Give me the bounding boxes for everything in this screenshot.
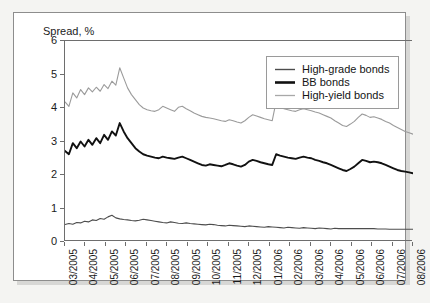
y-axis-tick bbox=[60, 208, 64, 209]
legend-item: High-yield bonds bbox=[275, 89, 389, 102]
y-axis-tick bbox=[60, 74, 64, 75]
x-axis-tick-label: 05/2006 bbox=[355, 249, 366, 285]
x-axis-tick bbox=[412, 242, 413, 246]
x-axis-tick bbox=[371, 242, 372, 246]
chart-figure: Spread, % 012345603/200504/200505/200506… bbox=[0, 0, 430, 303]
x-axis-tick bbox=[187, 242, 188, 246]
y-axis-tick-label: 1 bbox=[31, 202, 57, 214]
y-axis-tick-label: 2 bbox=[31, 168, 57, 180]
legend-swatch-high-yield bbox=[275, 91, 295, 100]
x-axis-tick-label: 06/2005 bbox=[129, 249, 140, 285]
y-axis-tick-label: 0 bbox=[31, 235, 57, 247]
y-axis-tick bbox=[60, 40, 64, 41]
chart-frame: Spread, % 012345603/200504/200505/200506… bbox=[13, 12, 406, 281]
x-axis-tick-label: 11/2005 bbox=[232, 249, 243, 284]
x-axis-tick bbox=[310, 242, 311, 246]
x-axis-tick-label: 03/2006 bbox=[314, 249, 325, 285]
x-axis-tick bbox=[228, 242, 229, 246]
x-axis-tick bbox=[105, 242, 106, 246]
x-axis-tick-label: 07/2006 bbox=[396, 249, 407, 285]
x-axis-tick-label: 07/2005 bbox=[150, 249, 161, 285]
legend-label: BB bonds bbox=[302, 76, 350, 89]
x-axis-tick-label: 12/2005 bbox=[252, 249, 263, 285]
x-axis-tick-label: 06/2006 bbox=[375, 249, 386, 285]
x-axis-tick bbox=[125, 242, 126, 246]
y-axis-tick-label: 5 bbox=[31, 68, 57, 80]
legend-label: High-grade bonds bbox=[302, 63, 389, 76]
chart-legend: High-grade bonds BB bonds High-yield bon… bbox=[266, 56, 399, 109]
series-line bbox=[65, 123, 413, 173]
x-axis-tick-label: 08/2005 bbox=[170, 249, 181, 285]
legend-item: BB bonds bbox=[275, 76, 389, 89]
x-axis-tick bbox=[248, 242, 249, 246]
y-axis-tick-label: 3 bbox=[31, 135, 57, 147]
legend-label: High-yield bonds bbox=[302, 89, 384, 102]
x-axis-tick-label: 09/2005 bbox=[191, 249, 202, 285]
x-axis-tick bbox=[269, 242, 270, 246]
legend-item: High-grade bonds bbox=[275, 63, 389, 76]
x-axis-tick bbox=[64, 242, 65, 246]
x-axis-tick-label: 04/2006 bbox=[334, 249, 345, 285]
x-axis-tick-label: 03/2005 bbox=[68, 249, 79, 285]
y-axis-tick bbox=[60, 107, 64, 108]
x-axis-tick bbox=[330, 242, 331, 246]
legend-swatch-high-grade bbox=[275, 65, 295, 74]
x-axis-tick bbox=[166, 242, 167, 246]
x-axis-tick-label: 05/2005 bbox=[109, 249, 120, 285]
x-axis-tick-label: 04/2005 bbox=[88, 249, 99, 285]
x-axis-tick-label: 10/2005 bbox=[211, 249, 222, 285]
y-axis-tick-label: 4 bbox=[31, 101, 57, 113]
x-axis-tick bbox=[146, 242, 147, 246]
y-axis-tick bbox=[60, 174, 64, 175]
y-axis-tick-label: 6 bbox=[31, 34, 57, 46]
x-axis-tick bbox=[351, 242, 352, 246]
x-axis-tick bbox=[392, 242, 393, 246]
x-axis-tick bbox=[207, 242, 208, 246]
legend-swatch-bb bbox=[275, 78, 295, 87]
x-axis-tick-label: 01/2006 bbox=[273, 249, 284, 285]
x-axis-tick bbox=[289, 242, 290, 246]
x-axis-tick-label: 08/2006 bbox=[416, 249, 427, 285]
series-line bbox=[65, 215, 413, 229]
x-axis-tick bbox=[84, 242, 85, 246]
x-axis-tick-label: 02/2006 bbox=[293, 249, 304, 285]
y-axis-tick bbox=[60, 141, 64, 142]
